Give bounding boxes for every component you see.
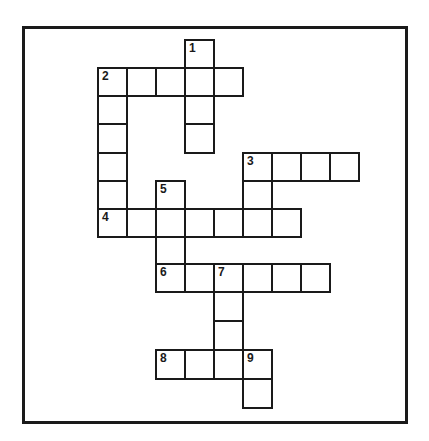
crossword-cell[interactable]: [155, 67, 186, 97]
letter-input[interactable]: [244, 154, 271, 180]
crossword-cell[interactable]: [184, 263, 215, 293]
letter-input[interactable]: [99, 182, 126, 208]
letter-input[interactable]: [186, 125, 213, 152]
crossword-cell[interactable]: [97, 152, 128, 182]
crossword-cell[interactable]: 3: [242, 152, 273, 182]
letter-input[interactable]: [215, 351, 242, 378]
crossword-cell[interactable]: [155, 208, 186, 238]
crossword-cell[interactable]: 8: [155, 349, 186, 380]
crossword-cell[interactable]: [213, 208, 244, 238]
letter-input[interactable]: [302, 265, 329, 291]
crossword-cell[interactable]: [242, 378, 273, 409]
crossword-cell[interactable]: [300, 152, 331, 182]
letter-input[interactable]: [157, 265, 184, 291]
crossword-cell[interactable]: [97, 95, 128, 125]
letter-input[interactable]: [186, 41, 213, 67]
letter-input[interactable]: [99, 210, 126, 236]
letter-input[interactable]: [157, 182, 184, 208]
letter-input[interactable]: [273, 210, 300, 236]
letter-input[interactable]: [186, 97, 213, 123]
letter-input[interactable]: [215, 210, 242, 236]
letter-input[interactable]: [99, 125, 126, 152]
crossword-cell[interactable]: [184, 349, 215, 380]
letter-input[interactable]: [157, 210, 184, 236]
crossword-cell[interactable]: [242, 263, 273, 293]
letter-input[interactable]: [157, 351, 184, 378]
letter-input[interactable]: [215, 322, 242, 349]
letter-input[interactable]: [215, 293, 242, 320]
crossword-cell[interactable]: [184, 208, 215, 238]
letter-input[interactable]: [157, 238, 184, 263]
letter-input[interactable]: [244, 380, 271, 407]
crossword-cell[interactable]: [97, 123, 128, 154]
crossword-cell[interactable]: [213, 349, 244, 380]
crossword-cell[interactable]: [213, 320, 244, 351]
crossword-cell[interactable]: [184, 67, 215, 97]
letter-input[interactable]: [273, 154, 300, 180]
crossword-cell[interactable]: 1: [184, 39, 215, 69]
crossword-cell[interactable]: [126, 208, 157, 238]
letter-input[interactable]: [157, 69, 184, 95]
letter-input[interactable]: [273, 265, 300, 291]
crossword-grid: 123546789: [0, 0, 429, 441]
crossword-cell[interactable]: 4: [97, 208, 128, 238]
crossword-cell[interactable]: [300, 263, 331, 293]
letter-input[interactable]: [99, 69, 126, 95]
letter-input[interactable]: [128, 69, 155, 95]
letter-input[interactable]: [99, 97, 126, 123]
crossword-cell[interactable]: [271, 152, 302, 182]
crossword-cell[interactable]: [126, 67, 157, 97]
crossword-cell[interactable]: [242, 208, 273, 238]
crossword-cell[interactable]: [271, 263, 302, 293]
crossword-cell[interactable]: [329, 152, 360, 182]
letter-input[interactable]: [186, 351, 213, 378]
letter-input[interactable]: [215, 265, 242, 291]
crossword-cell[interactable]: [184, 123, 215, 154]
letter-input[interactable]: [186, 265, 213, 291]
letter-input[interactable]: [128, 210, 155, 236]
letter-input[interactable]: [186, 210, 213, 236]
letter-input[interactable]: [99, 154, 126, 180]
crossword-cell[interactable]: [271, 208, 302, 238]
crossword-cell[interactable]: [213, 291, 244, 322]
letter-input[interactable]: [244, 351, 271, 378]
letter-input[interactable]: [244, 182, 271, 208]
crossword-cell[interactable]: 5: [155, 180, 186, 210]
crossword-cell[interactable]: 9: [242, 349, 273, 380]
crossword-cell[interactable]: [242, 180, 273, 210]
crossword-cell[interactable]: [97, 180, 128, 210]
letter-input[interactable]: [302, 154, 329, 180]
letter-input[interactable]: [331, 154, 358, 180]
crossword-cell[interactable]: [213, 67, 244, 97]
crossword-cell[interactable]: 6: [155, 263, 186, 293]
letter-input[interactable]: [215, 69, 242, 95]
letter-input[interactable]: [244, 210, 271, 236]
crossword-cell[interactable]: [155, 236, 186, 265]
crossword-cell[interactable]: 2: [97, 67, 128, 97]
letter-input[interactable]: [186, 69, 213, 95]
crossword-cell[interactable]: [184, 95, 215, 125]
crossword-cell[interactable]: 7: [213, 263, 244, 293]
letter-input[interactable]: [244, 265, 271, 291]
